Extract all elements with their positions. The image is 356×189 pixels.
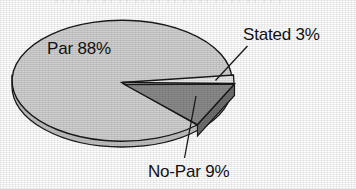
slice-label-stated: Stated 3% (243, 25, 320, 45)
slice-label-nopar: No-Par 9% (148, 162, 229, 182)
pie-chart-figure: Par 88% Stated 3% No-Par 9% (0, 0, 356, 189)
slice-label-par: Par 88% (47, 39, 111, 59)
